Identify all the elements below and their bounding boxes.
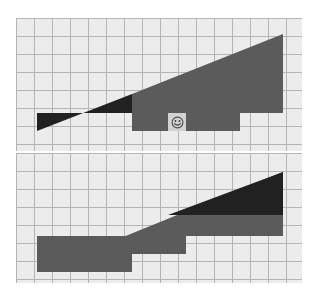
screenshot-canvas [0, 0, 316, 299]
gray-step-mid [37, 236, 186, 254]
smiley-face-icon [171, 116, 184, 129]
gray-step-low [37, 254, 132, 272]
gray-lower-block [132, 113, 240, 131]
bottom-panel-shapes [16, 153, 302, 283]
gray-wedge [132, 34, 283, 113]
top-panel-shapes [16, 18, 302, 151]
dark-upper-block [168, 172, 283, 215]
smiley-cursor-icon[interactable] [168, 113, 186, 131]
bottom-panel[interactable] [16, 153, 302, 283]
top-panel[interactable] [16, 18, 302, 151]
dark-wedge [37, 94, 132, 131]
